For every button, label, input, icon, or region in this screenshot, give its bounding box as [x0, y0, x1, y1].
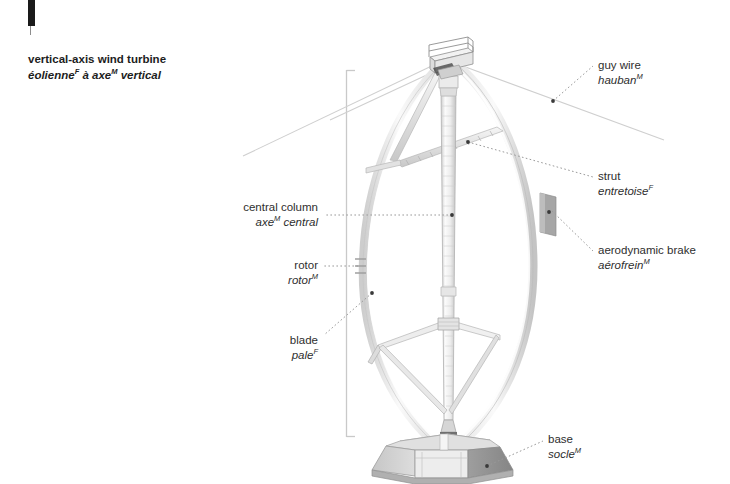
blade-dot: [370, 291, 374, 295]
figure-canvas: vertical-axis wind turbine éolienneF à a…: [0, 0, 730, 484]
height-bracket: [347, 70, 356, 437]
leader-strut: [468, 142, 593, 177]
label-strut: strut entretoiseF: [598, 169, 653, 198]
label-rotor-en: rotor: [118, 258, 318, 273]
label-blade-en: blade: [118, 333, 318, 348]
figure-title: vertical-axis wind turbine éolienneF à a…: [28, 52, 166, 83]
label-aerodynamic-brake-fr: aérofreinM: [598, 258, 696, 273]
central-column-dot: [450, 213, 454, 217]
label-rotor: rotor rotorM: [118, 258, 318, 287]
aerodynamic-brake-dot: [547, 210, 551, 214]
label-guy-wire-en: guy wire: [598, 58, 643, 73]
label-strut-en: strut: [598, 169, 653, 184]
aerodynamic-brake-flap: [540, 193, 556, 236]
label-base-fr: socleM: [548, 447, 581, 462]
strut-dot: [466, 140, 470, 144]
guy-wire-dot: [551, 99, 555, 103]
label-rotor-fr: rotorM: [118, 273, 318, 288]
label-central-column-fr: axeM central: [118, 215, 318, 230]
central-column: [439, 76, 458, 437]
base-dot: [485, 464, 489, 468]
figure-title-fr: éolienneF à axeM vertical: [28, 68, 166, 84]
label-guy-wire: guy wire haubanM: [598, 58, 643, 87]
label-central-column: central column axeM central: [118, 200, 318, 229]
label-aerodynamic-brake: aerodynamic brake aérofreinM: [598, 243, 696, 272]
strut-lower: [368, 318, 500, 414]
label-base-en: base: [548, 432, 581, 447]
label-base: base socleM: [548, 432, 581, 461]
label-blade-fr: paleF: [118, 348, 318, 363]
label-aerodynamic-brake-en: aerodynamic brake: [598, 243, 696, 258]
label-central-column-en: central column: [118, 200, 318, 215]
label-strut-fr: entretoiseF: [598, 184, 653, 199]
base-pedestal: [372, 434, 513, 484]
label-blade: blade paleF: [118, 333, 318, 362]
leader-aerodynamic-brake: [552, 211, 593, 251]
label-guy-wire-fr: haubanM: [598, 73, 643, 88]
figure-title-en: vertical-axis wind turbine: [28, 52, 166, 68]
blade-left: [363, 63, 447, 441]
leader-guy-wire: [553, 66, 593, 101]
